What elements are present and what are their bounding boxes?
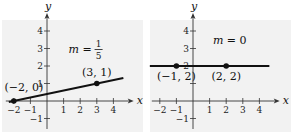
y-axis-label: y bbox=[44, 0, 52, 13]
y-axis-label: y bbox=[190, 0, 198, 13]
y-tick-label: 3 bbox=[183, 44, 189, 54]
slope-annotation: m = bbox=[69, 43, 92, 56]
point-label: (2, 2) bbox=[211, 70, 241, 83]
plot-background bbox=[2, 20, 143, 132]
svg-text:1: 1 bbox=[96, 39, 102, 49]
x-tick-label: 4 bbox=[257, 105, 263, 115]
data-point bbox=[94, 81, 100, 87]
svg-text:5: 5 bbox=[96, 51, 102, 61]
x-tick-label: 2 bbox=[223, 105, 229, 115]
data-point bbox=[11, 98, 17, 104]
y-tick-label: 4 bbox=[183, 26, 189, 36]
x-tick-label: 2 bbox=[77, 105, 83, 115]
x-tick-label: −2 bbox=[7, 105, 20, 115]
graph-slope-one-fifth: xy−2−11234−11234(−2, 0)(3, 1)m =15 bbox=[0, 0, 145, 137]
x-tick-label: 1 bbox=[207, 105, 213, 115]
point-label: (−1, 2) bbox=[157, 70, 196, 83]
y-tick-label: 3 bbox=[37, 44, 43, 54]
x-axis-label: x bbox=[137, 94, 144, 107]
graph-slope-zero: xy−2−11234−1234(−1, 2)(2, 2)m = 0 bbox=[148, 0, 293, 137]
data-point bbox=[223, 63, 229, 69]
data-point bbox=[174, 63, 180, 69]
point-label: (−2, 0) bbox=[4, 81, 43, 94]
y-tick-label: 4 bbox=[37, 26, 43, 36]
y-tick-label: 2 bbox=[37, 61, 43, 71]
x-tick-label: 4 bbox=[111, 105, 117, 115]
x-axis-label: x bbox=[283, 94, 290, 107]
x-tick-label: 1 bbox=[61, 105, 67, 115]
point-label: (3, 1) bbox=[82, 66, 112, 79]
y-tick-label: −1 bbox=[30, 114, 43, 124]
slope-annotation: m = 0 bbox=[213, 34, 247, 47]
x-tick-label: −2 bbox=[153, 105, 166, 115]
x-tick-label: 3 bbox=[94, 105, 100, 115]
x-tick-label: 3 bbox=[240, 105, 246, 115]
y-tick-label: −1 bbox=[176, 114, 189, 124]
